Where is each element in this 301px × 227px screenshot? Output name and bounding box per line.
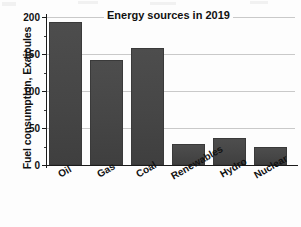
bar-chart: Fuel consumption, Exajoules 200 150 100 … bbox=[0, 0, 301, 227]
y-tick-label: 50 bbox=[0, 123, 40, 134]
y-tick-label: 150 bbox=[0, 49, 40, 60]
gridline-100 bbox=[47, 91, 295, 92]
y-tick-label: 0 bbox=[0, 160, 40, 171]
y-axis-line bbox=[46, 14, 47, 168]
paper-speckle bbox=[250, 1, 268, 4]
paper-speckle bbox=[150, 2, 176, 5]
gridline-150 bbox=[47, 54, 295, 55]
y-tick-label: 100 bbox=[0, 86, 40, 97]
y-axis-tick-labels: 200 150 100 50 0 bbox=[0, 0, 40, 227]
paper-speckle bbox=[78, 1, 98, 4]
plot-area bbox=[47, 17, 295, 165]
chart-title: Energy sources in 2019 bbox=[104, 9, 233, 21]
gridline-50 bbox=[47, 128, 295, 129]
bar-coal bbox=[131, 48, 164, 165]
bar-oil bbox=[49, 22, 82, 165]
y-tick-label: 200 bbox=[0, 12, 40, 23]
bar-gas bbox=[90, 60, 123, 165]
